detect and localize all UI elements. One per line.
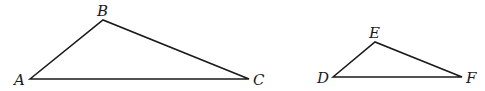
vertex-label-a: A: [12, 71, 25, 89]
triangle-def: D E F: [316, 24, 477, 87]
triangle-abc: A B C: [12, 2, 265, 89]
similar-triangles-diagram: A B C D E F: [0, 0, 485, 91]
triangle-abc-shape: [30, 20, 249, 79]
vertex-label-e: E: [368, 24, 380, 42]
vertex-label-c: C: [253, 71, 265, 89]
vertex-label-d: D: [316, 69, 329, 87]
vertex-label-b: B: [96, 2, 108, 20]
triangle-def-shape: [333, 42, 462, 77]
vertex-label-f: F: [465, 69, 477, 87]
